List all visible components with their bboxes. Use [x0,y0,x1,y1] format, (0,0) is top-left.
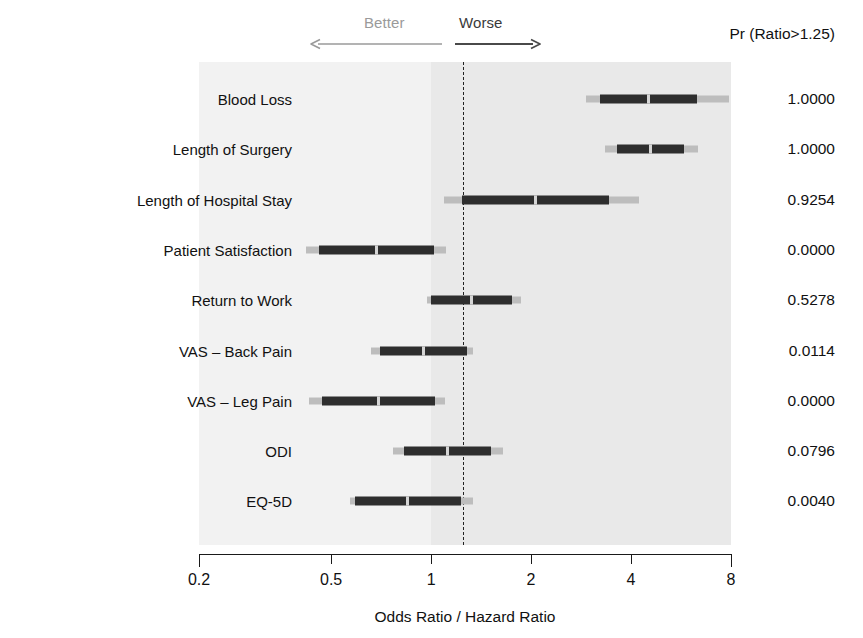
x-axis-tick [631,554,632,564]
row-label: ODI [265,443,292,460]
x-axis-tick [431,554,432,564]
row-label: Blood Loss [218,91,292,108]
row-probability-value: 1.0000 [788,90,835,108]
arrow-right-worse-icon [455,38,541,50]
x-axis-line [199,554,731,555]
row-probability-value: 0.5278 [788,291,835,309]
direction-label-worse: Worse [459,14,503,31]
row-label: EQ-5D [246,493,292,510]
forest-plot-figure: Better Worse Pr (Ratio>1.25) Blood Loss1… [0,0,863,638]
x-axis-tick-label: 0.5 [320,571,342,589]
row-probability-value: 0.0796 [788,442,835,460]
credible-interval-50 [617,145,684,154]
row-probability-value: 0.0000 [788,241,835,259]
row-probability-value: 0.9254 [788,191,835,209]
x-axis-tick [731,554,732,567]
credible-interval-50 [380,346,467,355]
row-label: VAS – Back Pain [179,342,292,359]
arrow-left-better-icon [310,38,442,50]
x-axis-tick-label: 8 [727,571,736,589]
x-axis-tick-label: 4 [627,571,636,589]
row-probability-value: 0.0040 [788,492,835,510]
credible-interval-50 [462,195,609,204]
x-axis-tick-label: 1 [427,571,436,589]
x-axis-title: Odds Ratio / Hazard Ratio [375,608,556,626]
row-label: Length of Hospital Stay [137,191,292,208]
direction-label-better: Better [364,14,405,31]
x-axis-tick [331,554,332,564]
credible-interval-50 [355,497,461,506]
x-axis-tick-label: 0.2 [188,571,210,589]
x-axis-tick [199,554,200,567]
row-label: Return to Work [191,292,292,309]
row-label: VAS – Leg Pain [187,392,292,409]
x-axis-tick-label: 2 [527,571,536,589]
credible-interval-50 [431,296,512,305]
row-label: Length of Surgery [173,141,292,158]
credible-interval-50 [319,245,434,254]
credible-interval-50 [600,95,697,104]
x-axis-tick [531,554,532,564]
credible-interval-50 [322,396,435,405]
row-probability-value: 0.0000 [788,392,835,410]
row-label: Patient Satisfaction [164,241,292,258]
row-probability-value: 1.0000 [788,140,835,158]
credible-interval-50 [404,447,490,456]
row-probability-value: 0.0114 [789,342,835,360]
probability-column-header: Pr (Ratio>1.25) [729,25,835,43]
